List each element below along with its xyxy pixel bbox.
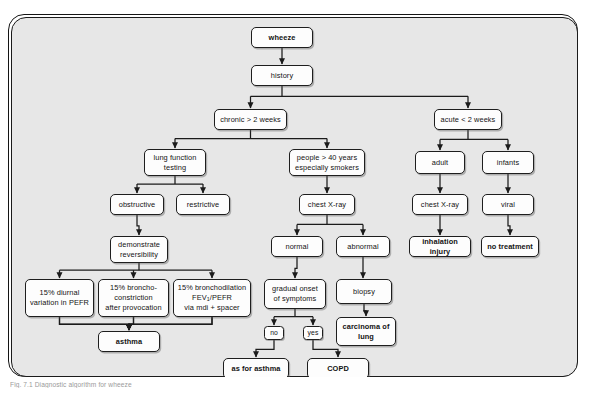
flow-edge (364, 304, 366, 316)
flow-node-label: infants (497, 158, 519, 168)
flow-node-label: acute < 2 weeks (441, 115, 496, 125)
flow-node-label: people > 40 years especially smokers (295, 153, 359, 173)
flow-node-demonstrate: demonstrate reversibility (110, 236, 168, 263)
figure-root: wheezehistorychronic > 2 weeksacute < 2 … (0, 0, 591, 394)
flow-node-label: no treatment (487, 242, 533, 252)
flow-node-acute: acute < 2 weeks (434, 109, 502, 130)
flow-edge (256, 340, 274, 357)
flow-node-label: demonstrate reversibility (118, 240, 160, 260)
flow-node-label: adult (432, 158, 448, 168)
flow-node-label: chest X-ray (421, 200, 459, 210)
flow-node-wheeze: wheeze (251, 27, 313, 48)
flow-node-history: history (251, 65, 313, 86)
flow-node-copd: COPD (307, 358, 369, 377)
flow-node-label: carcinoma of lung (343, 322, 390, 342)
flow-edge (313, 340, 338, 357)
flow-node-no-treatment: no treatment (481, 236, 539, 257)
flow-node-label: chronic > 2 weeks (220, 115, 281, 125)
flow-node-label: viral (501, 200, 515, 210)
flow-node-yes: yes (303, 326, 323, 340)
flow-node-label: restrictive (187, 200, 220, 210)
flow-node-obstructive: obstructive (110, 194, 164, 215)
flow-node-label: 15% broncho- constriction after provocat… (105, 283, 161, 312)
flow-node-asthma: asthma (98, 331, 160, 352)
flow-edge (137, 215, 139, 235)
flow-node-label: no (270, 329, 278, 338)
flow-node-label: history (271, 71, 293, 81)
flow-node-label: abnormal (347, 242, 378, 252)
flowchart-canvas: wheezehistorychronic > 2 weeksacute < 2 … (11, 17, 578, 377)
flow-node-label: 15% bronchodilation FEV1/PEFR via mdi + … (178, 283, 247, 313)
flow-node-infants: infants (482, 151, 534, 174)
flow-node-label: lung function testing (154, 153, 197, 173)
flow-node-people40: people > 40 years especially smokers (289, 149, 365, 176)
flow-node-gradual: gradual onset of symptoms (264, 279, 326, 309)
flow-node-label: yes (308, 329, 319, 338)
flow-node-restrictive: restrictive (176, 194, 230, 215)
flow-node-chronic: chronic > 2 weeks (214, 109, 287, 130)
flow-node-normal: normal (271, 236, 323, 257)
flow-node-label: chest X-ray (308, 200, 346, 210)
flow-edge (295, 257, 297, 278)
figure-caption: Fig. 7.1 Diagnostic algorithm for wheeze (10, 381, 410, 388)
flow-edge-merge (60, 317, 130, 330)
flow-node-chest-xray-r: chest X-ray (412, 194, 468, 215)
flow-edge (508, 215, 510, 235)
flow-node-lung-function: lung function testing (144, 149, 206, 176)
flow-node-viral: viral (482, 194, 534, 215)
flow-node-biopsy: biopsy (336, 279, 392, 304)
flow-node-label: biopsy (353, 287, 375, 297)
flow-edge-merge (129, 317, 212, 330)
flow-node-label: wheeze (269, 33, 296, 43)
flow-node-carcinoma: carcinoma of lung (336, 317, 396, 346)
flow-node-inhalation: inhalation injury (409, 236, 471, 257)
flow-node-adult: adult (415, 151, 465, 174)
flow-node-label: COPD (327, 364, 349, 374)
flow-node-label: asthma (116, 337, 142, 347)
flow-node-no: no (264, 326, 284, 340)
flow-node-broncho: 15% broncho- constriction after provocat… (98, 279, 169, 317)
flow-node-diurnal: 15% diurnal variation in PEFR (25, 279, 94, 317)
flow-node-as-for-asthma: as for asthma (223, 358, 289, 377)
flow-node-label: inhalation injury (412, 237, 468, 257)
flow-node-label: obstructive (119, 200, 156, 210)
flow-node-label: gradual onset of symptoms (272, 284, 318, 304)
flow-node-bronchodil: 15% bronchodilation FEV1/PEFR via mdi + … (173, 279, 251, 317)
flow-node-label: 15% diurnal variation in PEFR (30, 288, 89, 308)
flow-node-chest-xray-c: chest X-ray (299, 194, 355, 215)
flow-node-label: as for asthma (231, 364, 280, 374)
flow-node-abnormal: abnormal (336, 236, 390, 257)
flow-node-label: normal (285, 242, 308, 252)
